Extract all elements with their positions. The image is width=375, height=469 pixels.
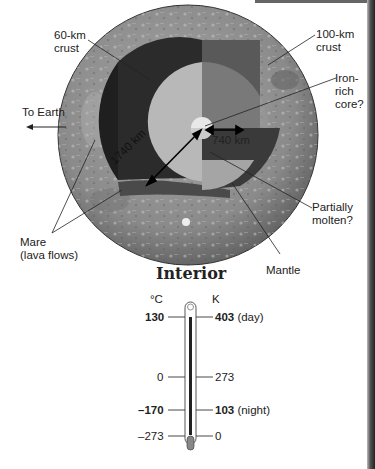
kelvin-unit: K bbox=[212, 293, 220, 306]
celsius-minus-170: –170 bbox=[138, 404, 164, 417]
label-line: 100-km bbox=[316, 28, 354, 41]
label-line: Mare bbox=[20, 236, 78, 249]
label-partially-molten: Partially molten? bbox=[312, 201, 353, 227]
label-line: Iron- bbox=[335, 72, 364, 85]
kelvin-note: (day) bbox=[237, 311, 263, 323]
label-inner-radius: 740 km bbox=[212, 134, 250, 147]
label-to-earth: To Earth bbox=[22, 106, 65, 119]
label-100km-crust: 100-km crust bbox=[316, 28, 354, 54]
label-mare: Mare (lava flows) bbox=[20, 236, 78, 262]
celsius-unit: °C bbox=[150, 293, 163, 306]
label-60km-crust: 60-km crust bbox=[54, 29, 86, 55]
kelvin-value: 403 bbox=[215, 311, 234, 323]
label-line: Partially bbox=[312, 201, 353, 214]
celsius-0: 0 bbox=[157, 371, 163, 384]
label-line: molten? bbox=[312, 214, 353, 227]
page-edge-shadow bbox=[367, 0, 375, 469]
celsius-130: 130 bbox=[145, 311, 164, 324]
label-line: 60-km bbox=[54, 29, 86, 42]
label-iron-core: Iron- rich core? bbox=[335, 72, 364, 111]
label-line: (lava flows) bbox=[20, 249, 78, 262]
kelvin-0: 0 bbox=[215, 430, 221, 443]
kelvin-note: (night) bbox=[237, 404, 270, 416]
thermometer bbox=[168, 302, 213, 450]
kelvin-273: 273 bbox=[215, 371, 234, 384]
label-line: crust bbox=[316, 41, 354, 54]
label-line: crust bbox=[54, 42, 86, 55]
kelvin-103: 103 (night) bbox=[215, 404, 270, 417]
kelvin-value: 103 bbox=[215, 404, 234, 416]
label-mantle: Mantle bbox=[266, 264, 301, 277]
celsius-minus-273: –273 bbox=[138, 430, 164, 443]
kelvin-403: 403 (day) bbox=[215, 311, 264, 324]
label-line: rich bbox=[335, 85, 364, 98]
label-line: core? bbox=[335, 98, 364, 111]
moon-cutaway-diagram bbox=[0, 0, 375, 469]
diagram-title: Interior bbox=[156, 264, 226, 283]
